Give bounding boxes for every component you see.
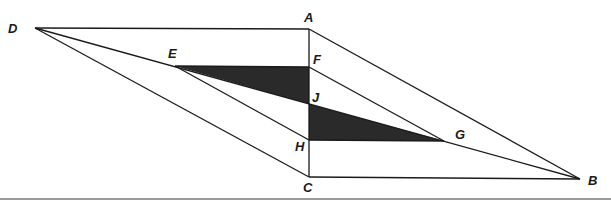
label-c: C xyxy=(303,180,313,195)
label-d: D xyxy=(8,21,18,36)
label-h: H xyxy=(295,139,305,154)
segment-da xyxy=(35,28,309,29)
label-e: E xyxy=(168,46,177,61)
label-b: B xyxy=(588,173,597,188)
label-g: G xyxy=(455,127,465,142)
label-j: J xyxy=(312,90,320,105)
label-a: A xyxy=(303,10,313,25)
segment-cb xyxy=(309,177,580,179)
segment-ab xyxy=(309,29,580,179)
segment-db xyxy=(35,28,580,179)
label-f: F xyxy=(313,52,322,67)
geometry-figure: D A E F J H G C B xyxy=(0,0,611,203)
